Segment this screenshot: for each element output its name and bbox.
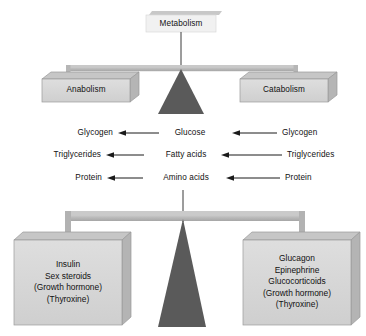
bottom-left-line-1: Sex steroids: [34, 271, 102, 283]
bottom-right-line-1: Epinephrine: [263, 265, 331, 277]
bottom-left-line-2: (Growth hormone): [34, 282, 102, 294]
bottom-right-text: Glucagon Epinephrine Glucocorticoids (Gr…: [263, 253, 331, 311]
reaction-row-2-left: Protein: [75, 173, 102, 184]
reaction-row-0-left: Glycogen: [78, 128, 113, 139]
bottom-right-line-3: (Growth hormone): [263, 288, 331, 300]
reaction-row-0-middle: Glucose: [175, 128, 206, 139]
reaction-row-1-left: Triglycerides: [54, 150, 101, 161]
reaction-row-1-right: Triglycerides: [287, 150, 334, 161]
anabolism-label: Anabolism: [66, 85, 105, 96]
metabolism-label: Metabolism: [160, 19, 203, 30]
bottom-left-line-3: (Thyroxine): [34, 294, 102, 306]
catabolism-label: Catabolism: [263, 85, 305, 96]
bottom-right-line-4: (Thyroxine): [263, 299, 331, 311]
bottom-fulcrum-icon: [158, 219, 206, 327]
reaction-row-0-right: Glycogen: [282, 128, 317, 139]
reaction-row-2-middle: Amino acids: [163, 173, 209, 184]
bottom-right-line-0: Glucagon: [263, 253, 331, 265]
bottom-left-line-0: Insulin: [34, 259, 102, 271]
reaction-row-2-right: Protein: [285, 173, 312, 184]
bottom-right-line-2: Glucocorticoids: [263, 276, 331, 288]
top-fulcrum-icon: [158, 69, 204, 114]
reaction-row-1-middle: Fatty acids: [166, 150, 207, 161]
diagram-canvas: Metabolism Anabolism Catabolism Glycogen…: [0, 0, 366, 336]
bottom-left-text: Insulin Sex steroids (Growth hormone) (T…: [34, 259, 102, 305]
